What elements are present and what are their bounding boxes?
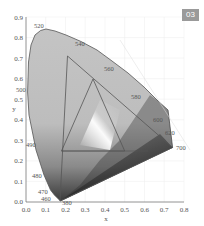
svg-text:0.0: 0.0	[14, 198, 23, 206]
svg-text:0.8: 0.8	[14, 34, 23, 42]
figure-number-badge: 03	[182, 9, 199, 21]
svg-text:0.6: 0.6	[14, 75, 23, 83]
svg-text:460: 460	[41, 195, 51, 202]
svg-text:0.5: 0.5	[120, 206, 129, 214]
svg-text:0.4: 0.4	[14, 116, 23, 124]
svg-text:0.4: 0.4	[101, 206, 110, 214]
svg-text:0.3: 0.3	[81, 206, 90, 214]
chromaticity-chart: 0.0 0.1 0.2 0.3 0.4 0.5 0.6 0.7 0.8 x 0.…	[0, 0, 204, 226]
svg-text:540: 540	[75, 40, 85, 47]
x-axis-label: x	[104, 215, 108, 223]
svg-text:0.7: 0.7	[14, 55, 23, 63]
svg-text:0.3: 0.3	[14, 137, 23, 145]
svg-text:0.5: 0.5	[14, 96, 23, 104]
svg-text:490: 490	[26, 141, 36, 148]
svg-text:380: 380	[62, 199, 72, 206]
svg-text:0.2: 0.2	[61, 206, 70, 214]
svg-text:480: 480	[32, 172, 42, 179]
svg-text:560: 560	[104, 65, 114, 72]
svg-text:520: 520	[34, 22, 44, 29]
svg-text:0.1: 0.1	[14, 178, 23, 186]
svg-text:0.6: 0.6	[140, 206, 149, 214]
svg-text:700: 700	[176, 144, 186, 151]
svg-text:0.9: 0.9	[14, 14, 23, 22]
x-tick-labels: 0.0 0.1 0.2 0.3 0.4 0.5 0.6 0.7 0.8	[22, 206, 189, 214]
svg-text:470: 470	[38, 188, 48, 195]
svg-text:500: 500	[16, 86, 26, 93]
y-axis-label: y	[12, 105, 16, 113]
svg-text:0.7: 0.7	[160, 206, 169, 214]
svg-text:0.1: 0.1	[41, 206, 50, 214]
svg-text:600: 600	[153, 116, 163, 123]
svg-text:580: 580	[131, 93, 141, 100]
svg-text:0.2: 0.2	[14, 157, 23, 165]
svg-text:0.0: 0.0	[22, 206, 31, 214]
svg-text:620: 620	[165, 129, 175, 136]
svg-text:0.8: 0.8	[180, 206, 189, 214]
